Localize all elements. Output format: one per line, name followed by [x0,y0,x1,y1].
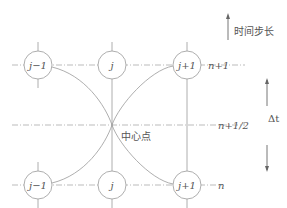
delta-t-down-arrowhead-icon [265,166,269,172]
stencil-diagram: j−1 j j+1 j−1 j j+1 n+1 n+1/2 n 中心点 时间步长… [0,0,287,208]
time-step-label: 时间步长 [234,25,274,37]
time-step-arrowhead-icon [226,13,230,19]
row-label-n-plus-1: n+1 [208,60,229,71]
node-top-jm1-label: j−1 [27,60,47,71]
row-label-n: n [218,180,224,191]
delta-t-label: Δt [268,113,279,124]
node-bottom-jp1-label: j+1 [176,180,196,191]
row-label-n-plus-half: n+1/2 [218,120,249,131]
curve-jm1-bottom-to-jp1-top [52,66,173,183]
curve-jm1-top-to-jp1-bottom [52,67,173,184]
node-bottom-jm1-label: j−1 [27,180,47,191]
node-top-jp1-label: j+1 [176,60,196,71]
center-point-label: 中心点 [121,130,151,142]
delta-t-up-arrowhead-icon [265,78,269,84]
